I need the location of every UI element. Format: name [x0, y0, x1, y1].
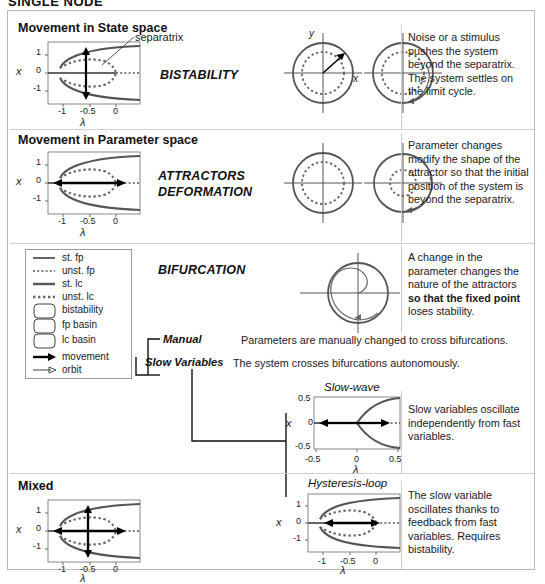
- y-tick-0-a: 0: [36, 65, 41, 75]
- chart-phase-portrait-deformation-left: [280, 137, 366, 225]
- label-attractors-line1: ATTRACTORS: [158, 169, 245, 183]
- branch-tree-connectors-lower: [186, 369, 296, 509]
- phase-y-axis-label: y: [309, 28, 314, 39]
- unstable-spiral-orbit: [331, 268, 378, 320]
- divider-horizontal-1: [10, 129, 534, 130]
- description-slow-wave: Slow variables oscillate independently f…: [408, 403, 532, 444]
- legend-label-lc-basin: lc basin: [62, 334, 96, 345]
- y-tick-0-b: 0: [36, 175, 41, 185]
- y-tick-1-a: 1: [36, 47, 41, 57]
- divider-vertical-1: [401, 25, 402, 129]
- y-tick-0-hl: 0: [296, 516, 301, 526]
- arrow-head-stimulus: [336, 53, 345, 60]
- legend-label-st-fp: st. fp: [62, 252, 84, 263]
- legend-swatch-fp-basin-box: [34, 319, 55, 333]
- x-tick-neg05-a: -0.5: [80, 106, 96, 116]
- chart-phase-portrait-bifurcation: [296, 247, 406, 335]
- y-tick-0-sw: 0: [308, 417, 313, 427]
- description-attractors-deformation: Parameter changes modify the shape of th…: [408, 139, 530, 207]
- x-axis-label-hl: λ: [340, 564, 345, 576]
- divider-vertical-3: [401, 245, 402, 333]
- legend-label-bistability: bistability: [62, 304, 103, 315]
- branch-label-manual: Manual: [163, 333, 202, 345]
- legend-label-st-lc: st. lc: [62, 278, 83, 289]
- description-bifurcation: A change in the parameter changes the na…: [408, 251, 532, 319]
- separatrix-annotation: separatrix: [135, 31, 183, 45]
- top-cut-header: SINGLE NODE: [8, 0, 103, 9]
- legend-swatch-lc-basin-box: [34, 334, 55, 348]
- label-attractors-line2: DEFORMATION: [158, 185, 252, 199]
- figure-frame: Movement in State space 1 0 -1 x -1 -0.5…: [7, 10, 535, 570]
- x-tick-neg05-b: -0.5: [80, 216, 96, 226]
- divider-vertical-2: [401, 133, 402, 243]
- divider-horizontal-3: [10, 473, 534, 474]
- y-axis-label-sw: x: [286, 417, 292, 429]
- y-tick-neg1-b: -1: [33, 193, 41, 203]
- plot-title-slow-wave: Slow-wave: [324, 381, 380, 393]
- x-tick-neg1-mx: -1: [58, 564, 66, 574]
- y-tick-neg1-hl: -1: [293, 533, 301, 543]
- legend-label-fp-basin: fp basin: [62, 319, 97, 330]
- divider-vertical-4: [401, 391, 402, 473]
- x-tick-05-sw: 0.5: [389, 454, 402, 464]
- label-bifurcation: BIFURCATION: [158, 263, 245, 277]
- divider-horizontal-2: [10, 243, 534, 244]
- y-tick-1-hl: 1: [296, 499, 301, 509]
- x-tick-0-mx: 0: [113, 564, 118, 574]
- y-tick-1-mx: 1: [36, 505, 41, 515]
- section-title-mixed: Mixed: [18, 479, 53, 493]
- y-tick-neg1-a: -1: [33, 83, 41, 93]
- y-tick-05-sw: 0.5: [298, 393, 311, 403]
- legend-swatch-bistability-box: [34, 304, 55, 318]
- y-tick-neg05-sw: -0.5: [295, 441, 311, 451]
- plot-title-hysteresis-loop: Hysteresis-loop: [308, 477, 387, 489]
- legend-label-unst-lc: unst. lc: [62, 291, 94, 302]
- y-tick-neg1-mx: -1: [33, 541, 41, 551]
- y-axis-label-b: x: [16, 175, 22, 187]
- stimulus-arrow: [323, 56, 342, 73]
- legend-box: st. fp unst. fp st. lc unst. lc bistabil…: [25, 249, 132, 379]
- legend-label-movement: movement: [62, 351, 109, 362]
- x-tick-neg05-sw: -0.5: [305, 454, 321, 464]
- y-axis-label-mx: x: [16, 523, 22, 535]
- divider-vertical-5: [401, 481, 402, 569]
- y-axis-label-a: x: [16, 65, 22, 77]
- bifurcation-text-pre: A change in the parameter changes the na…: [408, 251, 519, 290]
- bifurcation-text-bold: so that the fixed point: [408, 292, 520, 304]
- y-tick-0-mx: 0: [36, 523, 41, 533]
- bifurcation-text-post: loses stability.: [408, 305, 474, 317]
- x-tick-neg1-b: -1: [58, 216, 66, 226]
- description-hysteresis-loop: The slow variable oscillates thanks to f…: [408, 489, 532, 557]
- legend-label-unst-fp: unst. fp: [62, 265, 95, 276]
- x-axis-label-b: λ: [80, 226, 85, 238]
- x-tick-neg1-a: -1: [58, 106, 66, 116]
- x-tick-neg1-hl: -1: [318, 556, 326, 566]
- branch-label-slow-variables: Slow Variables: [145, 356, 224, 368]
- chart-phase-portrait-bistability-left: [280, 27, 366, 115]
- y-tick-1-b: 1: [36, 157, 41, 167]
- x-axis-label-a: λ: [80, 116, 85, 128]
- legend-label-orbit: orbit: [62, 364, 81, 375]
- x-tick-0-a: 0: [113, 106, 118, 116]
- y-axis-label-hl: x: [276, 516, 282, 528]
- legend-arrow-head-movement: [48, 353, 56, 361]
- x-tick-0-hl: 0: [373, 556, 378, 566]
- section-title-parameter-space: Movement in Parameter space: [18, 133, 198, 147]
- label-bistability: BISTABILITY: [160, 68, 238, 82]
- x-axis-label-mx: λ: [80, 572, 85, 584]
- branch-text-manual: Parameters are manually changed to cross…: [241, 334, 508, 348]
- x-tick-0-b: 0: [113, 216, 118, 226]
- tree-stem-lower: [192, 369, 286, 441]
- description-bistability: Noise or a stimulus pushes the system be…: [408, 31, 530, 99]
- phase-x-axis-label: x: [353, 73, 358, 84]
